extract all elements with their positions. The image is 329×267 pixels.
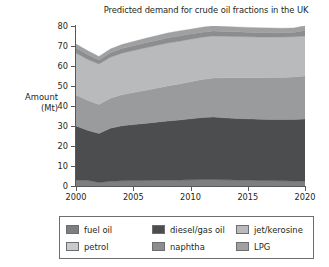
legend-swatch-icon <box>236 225 249 234</box>
y-tick-mark <box>71 186 75 187</box>
legend-item[interactable]: LPG <box>236 242 310 252</box>
legend-item[interactable]: petrol <box>66 242 152 252</box>
chart-title: Predicted demand for crude oil fractions… <box>88 5 324 15</box>
x-tick-mark <box>133 187 134 191</box>
x-tick-mark <box>191 187 192 191</box>
y-axis-line <box>75 25 76 187</box>
x-tick-mark <box>305 187 306 191</box>
y-tick-mark <box>71 26 75 27</box>
legend-swatch-icon <box>66 225 79 234</box>
y-tick-mark <box>71 86 75 87</box>
y-tick-label: 20 <box>46 141 68 151</box>
y-tick-label: 80 <box>46 21 68 31</box>
legend-swatch-icon <box>236 242 249 251</box>
legend-label: petrol <box>84 242 108 252</box>
chart-container: Predicted demand for crude oil fractions… <box>0 0 329 210</box>
legend-label: fuel oil <box>84 225 112 235</box>
legend-label: jet/kerosine <box>254 225 303 235</box>
y-tick-mark <box>71 126 75 127</box>
y-tick-mark <box>71 106 75 107</box>
y-tick-mark <box>71 146 75 147</box>
x-tick-mark <box>76 187 77 191</box>
x-tick-label: 2010 <box>174 192 208 202</box>
stacked-area-svg <box>76 26 305 186</box>
x-tick-label: 2020 <box>288 192 322 202</box>
legend-swatch-icon <box>152 242 165 251</box>
legend-label: LPG <box>254 242 270 252</box>
y-tick-mark <box>71 66 75 67</box>
y-tick-label: 40 <box>46 101 68 111</box>
x-tick-label: 2005 <box>116 192 150 202</box>
legend-item[interactable]: diesel/gas oil <box>152 225 236 235</box>
legend-grid: fuel oildiesel/gas oiljet/kerosinepetrol… <box>66 221 310 255</box>
legend-item[interactable]: fuel oil <box>66 225 152 235</box>
legend-item[interactable]: jet/kerosine <box>236 225 310 235</box>
legend-label: diesel/gas oil <box>170 225 225 235</box>
legend-label: naphtha <box>170 242 205 252</box>
y-tick-mark <box>71 46 75 47</box>
y-tick-label: 30 <box>46 121 68 131</box>
legend-swatch-icon <box>66 242 79 251</box>
y-tick-label: 70 <box>46 41 68 51</box>
chart-page: Predicted demand for crude oil fractions… <box>0 0 329 267</box>
y-tick-label: 50 <box>46 81 68 91</box>
y-tick-label: 10 <box>46 161 68 171</box>
y-tick-label: 60 <box>46 61 68 71</box>
x-tick-mark <box>248 187 249 191</box>
y-tick-mark <box>71 166 75 167</box>
x-tick-label: 2000 <box>59 192 93 202</box>
x-tick-label: 2015 <box>231 192 265 202</box>
legend-item[interactable]: naphtha <box>152 242 236 252</box>
plot-area <box>76 26 305 186</box>
y-tick-label: 0 <box>46 181 68 191</box>
chart-legend: fuel oildiesel/gas oiljet/kerosinepetrol… <box>59 216 314 259</box>
legend-swatch-icon <box>152 225 165 234</box>
